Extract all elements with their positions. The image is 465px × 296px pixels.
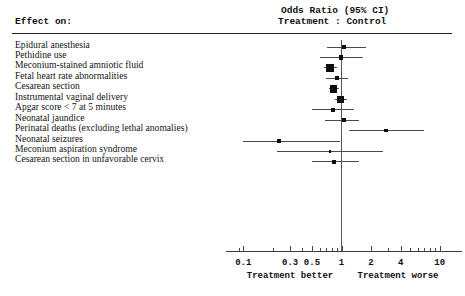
row-label: Meconium-stained amniotic fluid: [15, 60, 143, 70]
axis-tick: [424, 248, 425, 251]
confidence-interval: [243, 141, 339, 142]
point-estimate-marker: [337, 96, 344, 103]
axis-tick: [243, 246, 244, 252]
axis-tick-label: 0.3: [282, 258, 298, 268]
axis-tick: [410, 248, 411, 251]
forest-plot: Effect on: Odds Ratio (95% CI) Treatment…: [0, 0, 465, 296]
axis-tick: [320, 248, 321, 251]
axis-tick: [326, 248, 327, 251]
axis-tick: [388, 248, 389, 251]
x-axis-line: [226, 251, 462, 252]
caption-treatment-better: Treatment better: [247, 271, 333, 281]
axis-tick: [440, 246, 441, 252]
axis-tick: [273, 248, 274, 251]
header-divider: [12, 33, 452, 34]
axis-tick: [337, 248, 338, 251]
odds-ratio-title: Odds Ratio (95% CI): [281, 5, 389, 16]
axis-tick-label: 0.5: [304, 258, 320, 268]
reference-line: [341, 40, 342, 252]
point-estimate-marker: [326, 64, 334, 72]
axis-tick: [435, 248, 436, 251]
point-estimate-marker: [339, 55, 344, 60]
axis-tick-label: 10: [434, 258, 445, 268]
row-label: Apgar score < 7 at 5 minutes: [15, 102, 126, 112]
axis-tick-label: 2: [368, 258, 373, 268]
axis-tick: [401, 246, 402, 252]
axis-tick-label: 1: [339, 258, 344, 268]
point-estimate-marker: [384, 129, 388, 133]
axis-tick: [371, 246, 372, 252]
point-estimate-marker: [277, 139, 281, 143]
axis-tick: [312, 246, 313, 252]
treatment-control-subtitle: Treatment : Control: [278, 16, 386, 27]
axis-tick-label: 4: [398, 258, 403, 268]
point-estimate-marker: [329, 150, 332, 153]
axis-tick: [430, 248, 431, 251]
point-estimate-marker: [342, 118, 346, 122]
axis-tick: [342, 246, 343, 252]
point-estimate-marker: [330, 85, 338, 93]
confidence-interval: [327, 47, 366, 48]
row-label: Cesarean section in unfavorable cervix: [15, 154, 164, 164]
row-label: Perinatal deaths (excluding lethal anoma…: [15, 123, 188, 133]
row-label: Cesarean section: [15, 81, 80, 91]
point-estimate-marker: [342, 45, 347, 50]
row-label: Epidural anesthesia: [15, 40, 90, 50]
effect-on-header: Effect on:: [15, 16, 72, 27]
point-estimate-marker: [332, 160, 336, 164]
point-estimate-marker: [335, 76, 339, 80]
axis-tick-label: 0.1: [235, 258, 251, 268]
axis-tick: [418, 248, 419, 251]
caption-treatment-worse: Treatment worse: [357, 271, 438, 281]
point-estimate-marker: [331, 108, 335, 112]
axis-tick: [332, 248, 333, 251]
axis-tick: [239, 248, 240, 251]
axis-tick: [290, 246, 291, 252]
axis-tick: [302, 248, 303, 251]
